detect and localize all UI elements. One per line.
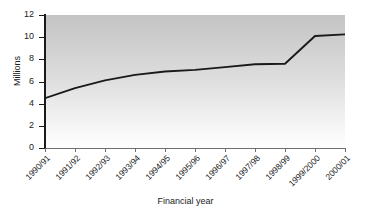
y-axis-tick [39,59,45,60]
x-axis-tick-label-text: 2000/01 [323,153,352,182]
y-axis-title: Millions [12,41,22,101]
x-axis-title: Financial year [0,196,371,206]
x-axis-tick-label-text: 1992/93 [83,153,112,182]
x-axis-tick-label-text: 1994/95 [143,153,172,182]
y-axis-tick [39,15,45,16]
y-axis-tick [39,37,45,38]
x-axis-tick-label-text: 1997/98 [233,153,262,182]
y-axis-tick [39,104,45,105]
line-chart: 024681012 1990/911991/921992/931993/9419… [0,0,371,218]
x-axis-tick [75,148,76,152]
x-axis-tick [345,148,346,152]
data-line-svg [45,15,345,148]
x-axis-tick [285,148,286,152]
x-axis-tick [315,148,316,152]
y-axis-tick [39,126,45,127]
x-axis-tick [255,148,256,152]
x-axis-tick-label-text: 1993/94 [113,153,142,182]
x-axis-tick [225,148,226,152]
x-axis-tick-label-text: 1995/96 [173,153,202,182]
x-axis-tick [165,148,166,152]
y-axis-tick-label: 0 [14,143,34,152]
y-axis-tick-label: 10 [14,32,34,41]
x-axis-tick-label-text: 1991/92 [53,153,82,182]
y-axis-tick-label: 2 [14,121,34,130]
y-axis-tick [39,82,45,83]
x-axis-tick-label-text: 1996/97 [203,153,232,182]
x-axis-tick [195,148,196,152]
data-series-line [45,34,345,98]
x-axis-tick-label-text: 1990/91 [23,153,52,182]
x-axis-tick [135,148,136,152]
plot-area [45,15,345,148]
x-axis-tick [45,148,46,152]
y-axis-tick-label: 12 [14,10,34,19]
x-axis-tick [105,148,106,152]
x-axis-tick-label-text: 1998/99 [263,153,292,182]
